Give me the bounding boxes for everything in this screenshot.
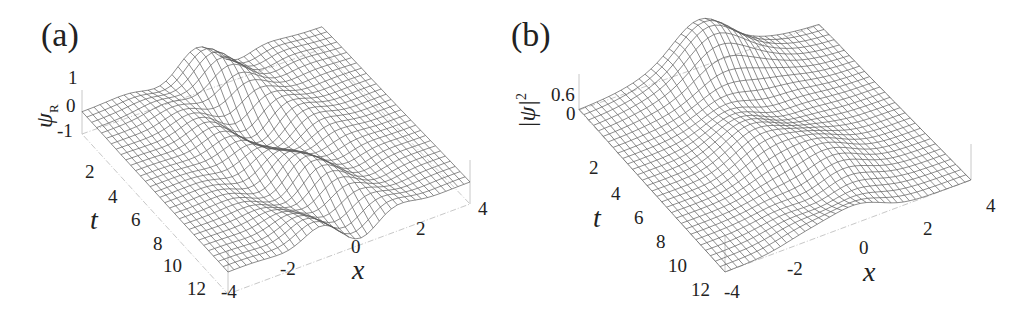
z-axis-label-a: ψR [32,104,60,128]
x-tick-b-m2: -2 [787,259,803,278]
surface-plot-b [511,0,1022,318]
t-tick-b-6: 6 [634,208,644,227]
t-tick-a-12: 12 [187,279,206,298]
z-label-main: |ψ| [514,100,540,128]
t-tick-b-8: 8 [656,232,666,251]
t-tick-a-8: 8 [153,234,163,253]
z-label-sub: R [46,104,61,113]
t-tick-a-6: 6 [131,210,141,229]
z-tick-a-m1: -1 [57,121,73,140]
x-tick-b-2: 2 [923,219,933,238]
x-tick-a-m4: -4 [221,282,237,301]
t-axis-label-a: t [90,206,98,234]
t-tick-a-10: 10 [163,256,182,275]
panel-a: (a) ψR 1 0 -1 2 4 6 8 10 12 t -4 -2 0 2 … [0,0,511,318]
panel-b: (b) |ψ|2 0.6 0 2 4 6 8 10 12 t -4 -2 0 2… [511,0,1022,318]
z-label-sup: 2 [514,93,529,100]
x-tick-b-0: 0 [859,238,869,257]
z-label-main: ψ [31,113,57,128]
t-axis-label-b: t [593,204,601,232]
z-tick-b-0: 0 [566,104,576,123]
t-tick-a-4: 4 [108,187,118,206]
z-tick-a-0: 0 [66,96,76,115]
z-axis-label-b: |ψ|2 [515,93,539,128]
x-tick-b-4: 4 [986,196,996,215]
x-tick-a-4: 4 [478,199,488,218]
panel-tag-a: (a) [41,18,79,52]
z-tick-b-06: 0.6 [551,85,575,104]
axis-box [579,25,971,272]
t-tick-a-2: 2 [85,162,95,181]
panel-tag-b: (b) [511,18,551,52]
t-tick-b-4: 4 [611,184,621,203]
x-tick-a-m2: -2 [280,259,296,278]
t-tick-b-12: 12 [691,280,710,299]
z-tick-a-1: 1 [68,68,78,87]
x-axis-label-a: x [352,256,364,284]
wireframe-mesh [82,27,470,272]
x-axis-label-b: x [863,258,875,286]
x-tick-b-m4: -4 [724,282,740,301]
wireframe-mesh [579,18,971,272]
t-tick-b-2: 2 [589,158,599,177]
x-tick-a-2: 2 [416,219,426,238]
t-tick-b-10: 10 [668,256,687,275]
